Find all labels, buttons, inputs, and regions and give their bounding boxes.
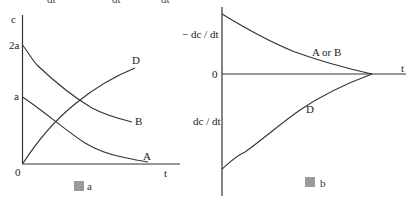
caption-glyph-box-b xyxy=(305,177,315,187)
chart-a: c 2a a 0 t D B A a xyxy=(9,13,180,192)
fragment-1: dt xyxy=(47,0,56,5)
y-label-zero-b: 0 xyxy=(212,68,218,80)
fragment-2: dt xyxy=(112,0,121,5)
label-a-or-b: A or B xyxy=(312,46,341,58)
curve-a xyxy=(23,97,149,162)
y-tick-a: a xyxy=(14,90,19,102)
origin-label-a: 0 xyxy=(15,166,21,178)
y-axis-label-a: c xyxy=(11,13,16,25)
caption-a: a xyxy=(74,180,92,192)
label-d-b: D xyxy=(306,103,314,115)
top-fragments: dt dt dt xyxy=(47,0,170,5)
y-label-upper-b: − dc / dt xyxy=(182,28,218,40)
caption-glyph-box-a xyxy=(74,181,84,191)
curve-a-or-b xyxy=(222,14,372,74)
x-axis-label-b: t xyxy=(401,62,404,74)
figure: dt dt dt c 2a a 0 t D B A a − dc / dt 0 … xyxy=(0,0,413,202)
label-b: B xyxy=(135,115,142,127)
fragment-3: dt xyxy=(161,0,170,5)
curve-b xyxy=(23,45,133,122)
caption-b: b xyxy=(305,177,326,189)
curve-d xyxy=(23,68,136,164)
label-a: A xyxy=(143,150,151,162)
label-d: D xyxy=(132,54,140,66)
curve-d-b xyxy=(222,74,372,169)
caption-letter-a: a xyxy=(87,180,92,192)
chart-b: − dc / dt 0 dc / dt t A or B D b xyxy=(182,7,406,196)
caption-letter-b: b xyxy=(320,177,326,189)
y-label-lower-b: dc / dt xyxy=(193,115,221,127)
y-tick-2a: 2a xyxy=(9,39,20,51)
x-axis-label-a: t xyxy=(164,167,167,179)
